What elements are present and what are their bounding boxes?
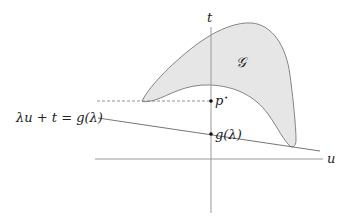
p-star-label: p⋆ [215, 93, 228, 108]
u-axis-label: u [327, 151, 335, 166]
g-lambda-label: g(λ) [215, 127, 242, 142]
diagram-canvas: t u 𝒢 p⋆ g(λ) λu + t = g(λ) [0, 0, 351, 223]
p-star-superscript: ⋆ [223, 93, 228, 102]
p-star-point [209, 99, 213, 103]
t-axis-label: t [207, 10, 213, 25]
supporting-line-equation: λu + t = g(λ) [15, 110, 103, 125]
g-lambda-point [209, 132, 213, 136]
